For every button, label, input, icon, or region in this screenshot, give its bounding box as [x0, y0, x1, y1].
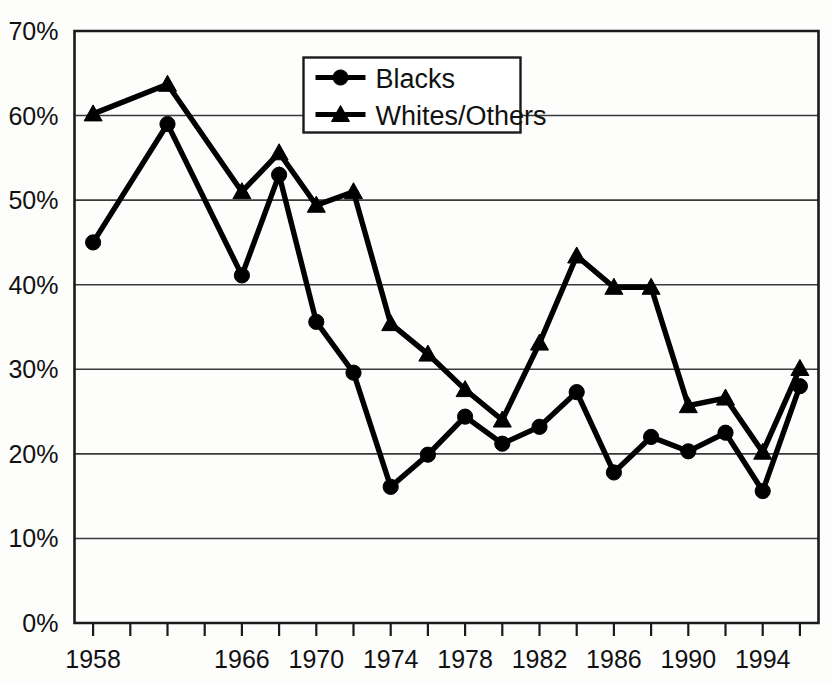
- data-point-blacks-1986: [606, 465, 621, 480]
- data-point-whites-others-1972: [345, 183, 363, 199]
- data-point-blacks-1996: [792, 379, 807, 394]
- series-line-blacks: [93, 124, 800, 491]
- legend-marker-circle-icon: [333, 70, 348, 85]
- x-tick-label-1990: 1990: [660, 645, 716, 673]
- y-tick-label-10: 10%: [8, 524, 58, 552]
- chart-container: 0%10%20%30%40%50%60%70% 1958196619701974…: [0, 0, 831, 684]
- data-series-group: [84, 75, 809, 498]
- data-point-blacks-1970: [309, 314, 324, 329]
- y-tick-label-60: 60%: [8, 102, 58, 130]
- y-tick-label-30: 30%: [8, 355, 58, 383]
- x-tick-label-1986: 1986: [586, 645, 642, 673]
- data-point-blacks-1994: [755, 483, 770, 498]
- data-point-blacks-1972: [346, 365, 361, 380]
- data-point-whites-others-1982: [531, 334, 549, 350]
- data-point-blacks-1958: [86, 235, 101, 250]
- data-point-whites-others-1974: [382, 315, 400, 331]
- data-point-blacks-1992: [718, 425, 733, 440]
- line-chart: 0%10%20%30%40%50%60%70% 1958196619701974…: [0, 0, 831, 684]
- data-point-blacks-1976: [420, 447, 435, 462]
- x-tick-label-1978: 1978: [437, 645, 493, 673]
- y-tick-label-40: 40%: [8, 271, 58, 299]
- x-axis-ticks: [93, 623, 800, 636]
- data-point-blacks-1978: [458, 409, 473, 424]
- legend-label: Whites/Others: [376, 101, 547, 131]
- data-point-whites-others-1968: [270, 144, 288, 160]
- x-tick-label-1958: 1958: [65, 645, 121, 673]
- chart-legend: BlacksWhites/Others: [304, 58, 547, 133]
- y-tick-label-50: 50%: [8, 186, 58, 214]
- data-point-blacks-1966: [234, 268, 249, 283]
- gridlines: [75, 116, 819, 539]
- series-line-whites-others: [93, 84, 800, 452]
- x-tick-label-1982: 1982: [512, 645, 568, 673]
- y-tick-label-20: 20%: [8, 440, 58, 468]
- x-axis-tick-labels: 195819661970197419781982198619901994: [65, 645, 790, 673]
- legend-label: Blacks: [376, 64, 456, 94]
- y-axis-tick-labels: 0%10%20%30%40%50%60%70%: [8, 17, 58, 637]
- data-point-whites-others-1996: [791, 359, 809, 375]
- x-tick-label-1966: 1966: [214, 645, 270, 673]
- x-tick-label-1994: 1994: [735, 645, 791, 673]
- data-point-whites-others-1984: [568, 247, 586, 263]
- data-point-blacks-1962: [160, 116, 175, 131]
- y-tick-label-0: 0%: [22, 609, 58, 637]
- x-tick-label-1974: 1974: [363, 645, 419, 673]
- data-point-blacks-1988: [644, 429, 659, 444]
- data-point-whites-others-1962: [159, 75, 177, 91]
- data-point-blacks-1974: [383, 479, 398, 494]
- x-tick-label-1970: 1970: [288, 645, 344, 673]
- data-point-blacks-1984: [569, 385, 584, 400]
- data-point-blacks-1982: [532, 419, 547, 434]
- data-point-blacks-1980: [495, 436, 510, 451]
- y-tick-label-70: 70%: [8, 17, 58, 45]
- data-point-blacks-1968: [272, 167, 287, 182]
- data-point-blacks-1990: [681, 444, 696, 459]
